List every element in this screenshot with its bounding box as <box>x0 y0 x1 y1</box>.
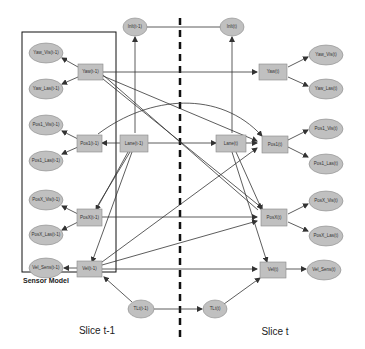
svg-text:Yaw_Vis(t-1): Yaw_Vis(t-1) <box>33 50 59 55</box>
node-yaw-vis-curr: Yaw_Vis(t) <box>309 45 343 65</box>
svg-text:Vel(t): Vel(t) <box>268 267 279 272</box>
node-posx-las-prev: PosX_Las(t-1) <box>29 225 63 245</box>
svg-text:PosX(t): PosX(t) <box>266 215 282 220</box>
node-pos1-curr: Pos1(t) <box>262 136 288 153</box>
sensor-model-label: Sensor Model <box>23 277 69 284</box>
state-nodes: Yaw(t-1) Yaw(t) Pos1(t-1) Lane(t-1) Lane… <box>77 64 288 278</box>
node-yaw-las-curr: Yaw_Las(t) <box>309 79 343 99</box>
node-posx-curr: PosX(t) <box>261 209 287 226</box>
svg-text:Lane(t): Lane(t) <box>224 141 239 146</box>
svg-text:Pos1_Vis(t-1): Pos1_Vis(t-1) <box>32 122 60 127</box>
svg-text:Pos1(t-1): Pos1(t-1) <box>80 141 99 146</box>
node-vel-sens-curr: Vel_Sens(t) <box>307 260 341 280</box>
svg-text:Lane(t-1): Lane(t-1) <box>125 141 144 146</box>
svg-text:Pos1_Las(t-1): Pos1_Las(t-1) <box>32 158 61 163</box>
node-lane-prev: Lane(t-1) <box>120 135 148 152</box>
svg-text:Vel_Sens(t-1): Vel_Sens(t-1) <box>32 265 60 270</box>
node-posx-vis-curr: PosX_Vis(t) <box>309 191 343 211</box>
svg-text:Yaw(t): Yaw(t) <box>267 69 280 74</box>
svg-text:Vel_Sens(t): Vel_Sens(t) <box>312 267 336 272</box>
node-vel-prev: Vel(t-1) <box>77 261 102 277</box>
svg-text:TLt(t-1): TLt(t-1) <box>134 306 149 311</box>
node-tlt-curr: TLt(t) <box>203 300 227 318</box>
node-yaw-las-prev: Yaw_Las(t-1) <box>29 79 63 99</box>
node-inlt-curr: Inlt(t) <box>220 18 244 36</box>
svg-text:PosX(t-1): PosX(t-1) <box>80 215 100 220</box>
node-posx-prev: PosX(t-1) <box>77 209 102 226</box>
svg-text:Yaw(t-1): Yaw(t-1) <box>82 69 99 74</box>
svg-text:PosX_Las(t-1): PosX_Las(t-1) <box>32 232 61 237</box>
node-yaw-vis-prev: Yaw_Vis(t-1) <box>29 43 63 63</box>
node-pos1-prev: Pos1(t-1) <box>77 135 102 152</box>
node-posx-las-curr: PosX_Las(t) <box>309 226 343 246</box>
svg-text:Yaw_Las(t): Yaw_Las(t) <box>315 86 338 91</box>
svg-text:Inlt(t-1): Inlt(t-1) <box>128 24 143 29</box>
node-tlt-prev: TLt(t-1) <box>128 300 154 318</box>
node-pos1-las-prev: Pos1_Las(t-1) <box>29 151 63 171</box>
slice-left-label: Slice t-1 <box>79 325 116 336</box>
node-vel-curr: Vel(t) <box>260 262 286 278</box>
svg-text:Pos1_Vis(t): Pos1_Vis(t) <box>314 126 338 131</box>
node-yaw-curr: Yaw(t) <box>259 64 287 80</box>
svg-text:Pos1_Las(t): Pos1_Las(t) <box>314 161 339 166</box>
node-lane-curr: Lane(t) <box>216 135 246 152</box>
node-vel-sens-prev: Vel_Sens(t-1) <box>29 258 63 278</box>
node-yaw-prev: Yaw(t-1) <box>78 64 103 80</box>
svg-text:Yaw_Las(t-1): Yaw_Las(t-1) <box>33 86 60 91</box>
slice-right-label: Slice t <box>261 326 288 337</box>
svg-text:PosX_Vis(t): PosX_Vis(t) <box>314 198 338 203</box>
svg-text:Pos1(t): Pos1(t) <box>268 142 283 147</box>
node-posx-vis-prev: PosX_Vis(t-1) <box>29 190 63 210</box>
svg-text:Inlt(t): Inlt(t) <box>227 24 238 29</box>
node-pos1-vis-curr: Pos1_Vis(t) <box>309 119 343 139</box>
svg-text:Vel(t-1): Vel(t-1) <box>82 266 97 271</box>
node-pos1-vis-prev: Pos1_Vis(t-1) <box>29 115 63 135</box>
node-pos1-las-curr: Pos1_Las(t) <box>309 154 343 174</box>
svg-text:PosX_Vis(t-1): PosX_Vis(t-1) <box>32 197 60 202</box>
node-inlt-prev: Inlt(t-1) <box>123 18 147 36</box>
svg-text:TLt(t): TLt(t) <box>210 306 221 311</box>
svg-text:PosX_Las(t): PosX_Las(t) <box>314 233 339 238</box>
svg-text:Yaw_Vis(t): Yaw_Vis(t) <box>315 52 337 57</box>
dbn-diagram: Inlt(t-1) Inlt(t) Yaw_Vis(t-1) Yaw_Las(t… <box>0 0 365 349</box>
